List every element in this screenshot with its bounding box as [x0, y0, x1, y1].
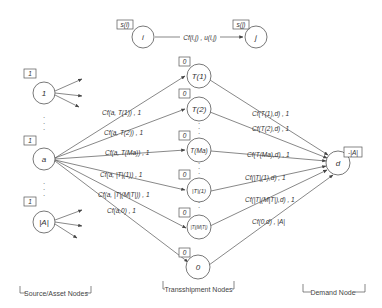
node-TMabs-label: |T|(M|T|) [191, 225, 208, 230]
svg-text:·: · [198, 203, 201, 212]
node-T2-supply: 0 [183, 90, 187, 97]
node-i-label: i [142, 33, 144, 42]
node-T1abs-label: |T|(1) [192, 188, 206, 194]
source-node-a: a 1 [24, 136, 55, 170]
transshipment-node-0: 0 0 [179, 248, 210, 279]
transshipment-node-T1abs: |T|(1) 0 [179, 170, 211, 202]
node-j-label: j [254, 33, 257, 42]
node-T1-label: T(1) [192, 72, 207, 81]
edge-label-T2-d: Cf(T(2),d) , 1 [252, 125, 290, 133]
node-TMa-label: T(Ma) [190, 147, 207, 155]
svg-text:·: · [198, 129, 201, 138]
transshipment-node-TMa: T(Ma) 0 [179, 131, 211, 162]
demand-node-label: d [336, 159, 341, 168]
node-T1abs-supply: 0 [183, 171, 187, 178]
supply-j-label: s(j) [236, 21, 245, 29]
edge-label-a-T1: Cf(a, T(1)) , 1 [102, 109, 141, 117]
node-TMabs-supply: 0 [183, 209, 187, 216]
demand-node-supply: -|A| [348, 149, 358, 157]
node-TMa-supply: 0 [183, 132, 187, 139]
edge-label-a-TMabs: Cf(a, |T|(M|T|)) , 1 [98, 191, 150, 199]
demand-edge-labels: Cf(T(1),d) , 1 Cf(T(2),d) , 1 Cf(T(Ma),d… [245, 110, 295, 226]
transshipment-node-TMabs: |T|(M|T|) 0 [179, 208, 211, 239]
source-node-1-supply: 1 [28, 70, 32, 77]
source-node-A: |A| 1 [24, 197, 82, 238]
edge-label-T1-d: Cf(T(1),d) , 1 [252, 110, 290, 118]
edge-label-a-TMa: Cf(a, T(Ma)) , 1 [105, 149, 150, 157]
source-node-a-supply: 1 [28, 137, 32, 144]
demand-node-d: d -|A| [326, 147, 362, 175]
source-node-A-label: |A| [39, 218, 49, 227]
group-label-source: Source/Asset Nodes [24, 290, 88, 297]
node-0-supply: 0 [183, 249, 187, 256]
legend-edge-label: Cf(i,j) , u(i,j) [183, 34, 217, 42]
source-node-1-label: 1 [42, 89, 46, 98]
edge-label-TMa-d: Cf(T(Ma),d) , 1 [247, 151, 290, 159]
legend-edge: Cf(i,j) , u(i,j) i s(i) j s(j) [117, 20, 267, 48]
edge-label-a-T1abs: Cf(a, |T|(1)) , 1 [100, 171, 143, 179]
node-T2-label: T(2) [192, 105, 207, 114]
svg-text:·: · [198, 169, 201, 178]
node-0-label: 0 [196, 263, 201, 272]
group-label-transshipment: Transshipment Nodes [164, 286, 233, 294]
transshipment-node-T2: T(2) 0 [179, 89, 211, 121]
source-node-a-label: a [42, 155, 47, 164]
source-node-1: 1 1 [24, 69, 82, 107]
supply-i-label: s(i) [120, 21, 129, 29]
edge-label-0-d: Cf(0,d) , |A| [252, 218, 285, 226]
edge-label-T1abs-d: Cf(|T|(1),d) , 1 [245, 174, 286, 182]
edge-label-TMabs-d: Cf(|T|(M|T|),d) , 1 [245, 196, 295, 204]
group-label-demand: Demand Node [310, 289, 355, 296]
edge-label-a-T2: Cf(a, T(2)) , 1 [104, 129, 143, 137]
source-node-A-supply: 1 [28, 198, 32, 205]
source-edges [55, 76, 188, 262]
node-T1-supply: 0 [183, 58, 187, 65]
network-flow-diagram: Cf(i,j) , u(i,j) i s(i) j s(j) 1 1 · · ·… [0, 0, 382, 308]
svg-text:·: · [43, 191, 46, 200]
edge-label-a-0: Cf(a,0) , 1 [107, 207, 136, 215]
svg-text:·: · [43, 125, 46, 134]
demand-edges [209, 80, 333, 265]
transshipment-node-T1: T(1) 0 [179, 57, 211, 88]
